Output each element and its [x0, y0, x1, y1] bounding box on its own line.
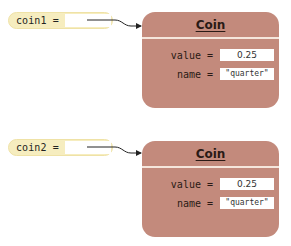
arrow-icon	[87, 147, 141, 153]
arrow-icon	[87, 20, 141, 26]
reference-arrows	[0, 0, 291, 246]
